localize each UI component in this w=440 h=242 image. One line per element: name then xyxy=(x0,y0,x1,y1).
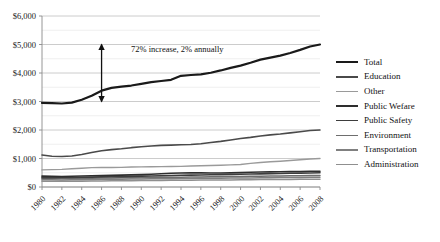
legend-line-swatch-icon xyxy=(336,61,358,63)
legend-label: Administration xyxy=(364,160,419,169)
legend-item-public-wefare[interactable]: Public Wefare xyxy=(336,99,440,114)
line-chart: $0$1,000$2,000$3,000$4,000$5,000$6,000 1… xyxy=(0,0,440,242)
chart-annotation-text: 72% increase, 2% annually xyxy=(131,44,224,54)
legend-label: Public Wefare xyxy=(364,102,415,111)
legend-label: Environment xyxy=(364,131,411,140)
legend-item-administration[interactable]: Administration xyxy=(336,157,440,172)
legend-label: Other xyxy=(364,87,385,96)
legend-item-environment[interactable]: Environment xyxy=(336,128,440,143)
legend-line-swatch-icon xyxy=(336,149,358,151)
legend-item-transportation[interactable]: Transportation xyxy=(336,143,440,158)
legend-line-swatch-icon xyxy=(336,105,358,107)
legend-label: Education xyxy=(364,72,401,81)
legend-item-total[interactable]: Total xyxy=(336,55,440,70)
legend-line-swatch-icon xyxy=(336,120,358,122)
legend-line-swatch-icon xyxy=(336,164,358,166)
legend-line-swatch-icon xyxy=(336,91,358,93)
legend-label: Transportation xyxy=(364,145,417,154)
legend-line-swatch-icon xyxy=(336,76,358,78)
legend-item-other[interactable]: Other xyxy=(336,84,440,99)
legend-label: Public Safety xyxy=(364,116,412,125)
legend-item-education[interactable]: Education xyxy=(336,70,440,85)
chart-legend: TotalEducationOtherPublic WefarePublic S… xyxy=(336,55,440,172)
legend-line-swatch-icon xyxy=(336,135,358,137)
legend-item-public-safety[interactable]: Public Safety xyxy=(336,113,440,128)
legend-label: Total xyxy=(364,58,382,67)
